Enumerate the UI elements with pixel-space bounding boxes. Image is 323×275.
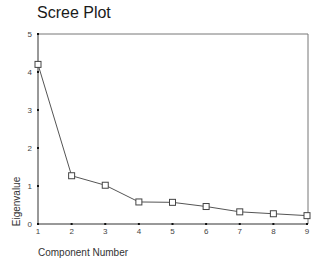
y-axis-label: Eigenvalue (11, 172, 22, 232)
x-tick-label: 8 (271, 227, 276, 236)
y-tick (37, 147, 39, 149)
data-point-marker (69, 173, 75, 179)
x-tick-label: 6 (204, 227, 209, 236)
y-tick (37, 71, 39, 73)
x-tick-label: 4 (137, 227, 142, 236)
data-point-marker (203, 204, 209, 210)
y-tick-label: 4 (28, 68, 33, 77)
data-point-marker (102, 182, 108, 188)
y-tick-label: 1 (28, 182, 33, 191)
x-tick (272, 223, 274, 225)
x-tick (239, 223, 241, 225)
x-tick (138, 223, 140, 225)
data-point-marker (237, 209, 243, 215)
x-tick-label: 7 (238, 227, 243, 236)
x-tick-label: 9 (305, 227, 310, 236)
x-tick-label: 5 (170, 227, 175, 236)
eigenvalue-line (38, 64, 307, 215)
x-axis-label: Component Number (38, 247, 128, 258)
y-tick (37, 33, 39, 35)
x-tick (104, 223, 106, 225)
data-point-marker (304, 213, 310, 219)
x-tick (172, 223, 174, 225)
x-tick (306, 223, 308, 225)
data-point-marker (35, 61, 41, 67)
y-tick (37, 109, 39, 111)
y-tick-label: 3 (28, 106, 33, 115)
x-tick-label: 2 (69, 227, 74, 236)
y-tick (37, 185, 39, 187)
scree-plot: 012345123456789 (0, 0, 323, 275)
x-tick (205, 223, 207, 225)
data-point-marker (170, 199, 176, 205)
y-tick-label: 2 (28, 144, 33, 153)
y-tick-label: 0 (28, 220, 33, 229)
y-tick-label: 5 (28, 30, 33, 39)
x-tick (71, 223, 73, 225)
data-point-marker (270, 211, 276, 217)
x-tick (37, 223, 39, 225)
x-tick-label: 1 (36, 227, 41, 236)
data-point-marker (136, 199, 142, 205)
x-tick-label: 3 (103, 227, 108, 236)
